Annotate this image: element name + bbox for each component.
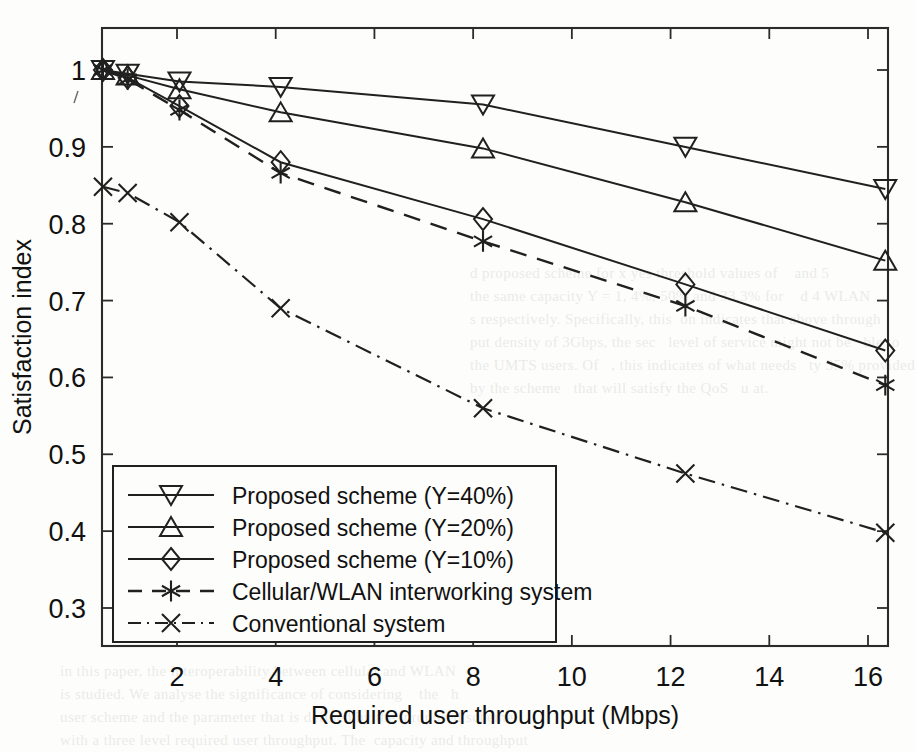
- legend-item-label: Conventional system: [232, 611, 446, 637]
- y-tick-label: 0.8: [48, 210, 86, 240]
- legend-item-label: Proposed scheme (Y=10%): [232, 547, 514, 573]
- marker-x-icon: [119, 184, 137, 202]
- scan-speck: [74, 91, 78, 103]
- x-tick-label: 6: [367, 662, 382, 692]
- marker-x-icon: [272, 299, 290, 317]
- marker-x-icon: [876, 524, 894, 542]
- series-2: [92, 60, 896, 270]
- x-tick-label: 12: [656, 662, 686, 692]
- y-tick-label: 0.5: [48, 440, 86, 470]
- marker-triangle-down-icon: [874, 180, 896, 199]
- x-tick-label: 10: [557, 662, 587, 692]
- legend-item-label: Proposed scheme (Y=40%): [232, 483, 514, 509]
- x-tick-label: 8: [466, 662, 481, 692]
- marker-asterisk-icon: [676, 296, 694, 317]
- y-tick-label: 0.9: [48, 133, 86, 163]
- series-line-3: [103, 70, 885, 351]
- x-tick-label: 14: [754, 662, 784, 692]
- marker-asterisk-icon: [474, 231, 492, 252]
- y-tick-label: 0.6: [48, 363, 86, 393]
- series-line-4: [103, 70, 885, 385]
- marker-x-icon: [474, 399, 492, 417]
- x-tick-label: 16: [853, 662, 883, 692]
- marker-x-icon: [676, 464, 694, 482]
- legend-item-label: Cellular/WLAN interworking system: [232, 579, 592, 605]
- x-axis-tick-labels: 246810121416: [169, 662, 883, 692]
- y-tick-label: 0.7: [48, 287, 86, 317]
- y-tick-label: 0.3: [48, 594, 86, 624]
- legend: Proposed scheme (Y=40%)Proposed scheme (…: [113, 466, 592, 642]
- x-axis-title: Required user throughput (Mbps): [311, 701, 679, 729]
- y-tick-label: 0.4: [48, 517, 86, 547]
- y-axis-title: Satisfaction index: [8, 239, 36, 435]
- x-tick-label: 4: [268, 662, 283, 692]
- x-tick-label: 2: [169, 662, 184, 692]
- y-axis-tick-labels: 0.30.40.50.60.70.80.91: [48, 56, 86, 624]
- y-tick-label: 1: [71, 56, 86, 86]
- series-3: [94, 59, 894, 362]
- marker-x-icon: [170, 213, 188, 231]
- legend-item-label: Proposed scheme (Y=20%): [232, 515, 514, 541]
